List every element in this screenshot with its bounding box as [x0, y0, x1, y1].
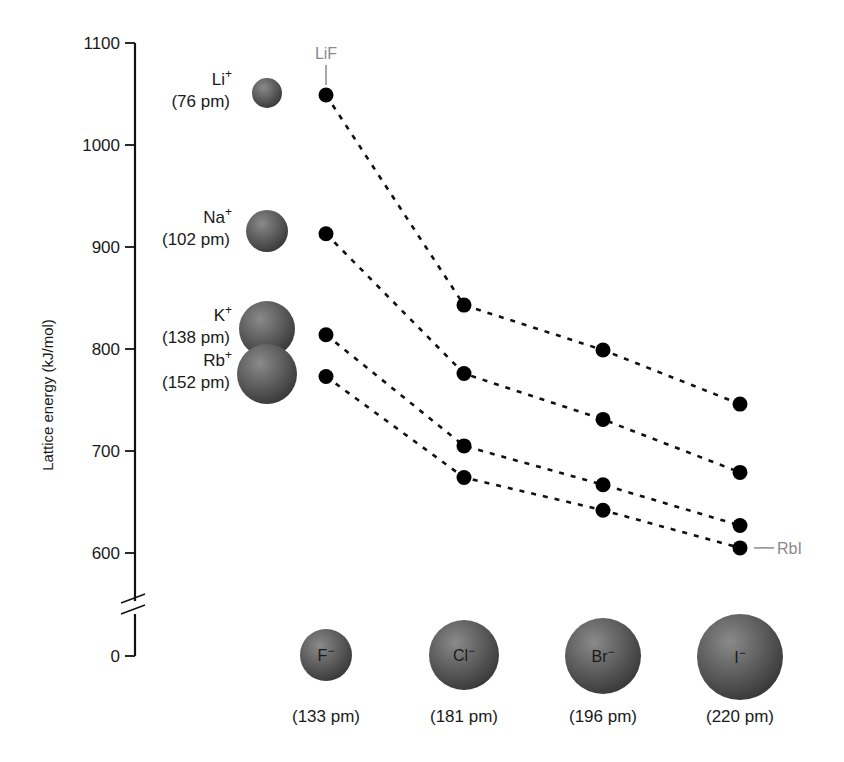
- anion-radius: (196 pm): [569, 707, 637, 726]
- anion-f: F−(133 pm): [292, 629, 360, 726]
- series-rb: [319, 369, 748, 555]
- y-tick-label: 700: [92, 442, 120, 461]
- y-tick-label: 600: [92, 544, 120, 563]
- annotation-rbi: RbI: [754, 540, 802, 557]
- cation-symbol: Li+: [212, 67, 232, 89]
- cation-symbol: K+: [214, 303, 232, 325]
- data-point: [319, 226, 334, 241]
- data-point: [733, 397, 748, 412]
- cation-symbol: Rb+: [203, 348, 232, 370]
- cation-rb: Rb+(152 pm): [162, 344, 297, 404]
- data-point: [457, 470, 472, 485]
- ion-sphere-icon: [246, 210, 288, 252]
- data-point: [596, 477, 611, 492]
- cation-symbol: Na+: [203, 205, 232, 227]
- data-point: [733, 540, 748, 555]
- cation-radius: (76 pm): [171, 92, 230, 111]
- anion-cl: Cl−(181 pm): [429, 620, 499, 726]
- series-line: [326, 95, 740, 404]
- data-point: [733, 518, 748, 533]
- anion-radius: (220 pm): [706, 707, 774, 726]
- series-line: [326, 234, 740, 473]
- cation-na: Na+(102 pm): [162, 205, 288, 252]
- data-point: [596, 503, 611, 518]
- y-tick-label: 0: [111, 647, 120, 666]
- y-tick-label: 1100: [83, 34, 120, 53]
- svg-text:LiF: LiF: [315, 45, 337, 62]
- series-line: [326, 335, 740, 526]
- cation-radius: (152 pm): [162, 373, 230, 392]
- y-tick-label: 900: [92, 238, 120, 257]
- series-li: [319, 88, 748, 412]
- anion-radius: (133 pm): [292, 707, 360, 726]
- ion-sphere-icon: [252, 78, 282, 108]
- anion-i: I−(220 pm): [697, 614, 783, 726]
- series-k: [319, 327, 748, 533]
- axis-break-icon: [121, 594, 145, 614]
- y-axis: 060070080090010001100: [82, 34, 145, 666]
- y-tick-label: 1000: [82, 136, 120, 155]
- cation-radius: (138 pm): [162, 328, 230, 347]
- data-point: [457, 366, 472, 381]
- anion-br: Br−(196 pm): [565, 618, 641, 726]
- series-line: [326, 377, 740, 548]
- data-point: [457, 438, 472, 453]
- data-series: [319, 88, 748, 556]
- ion-sphere-icon: [237, 344, 297, 404]
- svg-text:RbI: RbI: [777, 540, 802, 557]
- data-point: [596, 343, 611, 358]
- lattice-energy-chart: 060070080090010001100 Lattice energy (kJ…: [0, 0, 844, 762]
- annotation-lif: LiF: [315, 45, 337, 85]
- anion-axis: F−(133 pm)Cl−(181 pm)Br−(196 pm)I−(220 p…: [292, 614, 783, 726]
- data-point: [457, 298, 472, 313]
- series-na: [319, 226, 748, 480]
- data-point: [319, 88, 334, 103]
- anion-radius: (181 pm): [430, 707, 498, 726]
- y-axis-title: Lattice energy (kJ/mol): [39, 319, 56, 471]
- data-point: [596, 412, 611, 427]
- cation-radius: (102 pm): [162, 230, 230, 249]
- data-point: [319, 369, 334, 384]
- cation-li: Li+(76 pm): [171, 67, 282, 111]
- cation-legend: Li+(76 pm)Na+(102 pm)K+(138 pm)Rb+(152 p…: [162, 67, 297, 404]
- y-tick-label: 800: [92, 340, 120, 359]
- data-point: [319, 327, 334, 342]
- data-point: [733, 465, 748, 480]
- annotations: LiFRbI: [315, 45, 802, 557]
